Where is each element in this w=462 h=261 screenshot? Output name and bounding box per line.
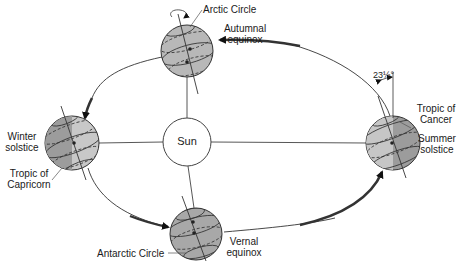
summer-solstice-label: Summer solstice	[413, 133, 461, 155]
seasons-diagram: Sun Arctic Circle Autumnal equinox 23½° …	[0, 0, 462, 261]
globe-vernal-equinox	[165, 196, 226, 261]
tropic-of-cancer-label: Tropic of Cancer	[412, 103, 460, 125]
vernal-equinox-label: Vernal equinox	[222, 236, 266, 258]
autumnal-equinox-label: Autumnal equinox	[219, 23, 271, 45]
tropic-of-capricorn-label: Tropic of Capricorn	[4, 168, 54, 190]
orbit-path	[85, 40, 390, 232]
arctic-circle-label: Arctic Circle	[203, 4, 256, 15]
globe-summer-solstice	[359, 72, 425, 178]
winter-solstice-label: Winter solstice	[0, 131, 44, 153]
sun-label: Sun	[170, 136, 204, 147]
tilt-angle-label: 23½°	[373, 70, 394, 81]
antarctic-circle-label: Antarctic Circle	[97, 248, 164, 259]
sun-rays	[99, 68, 366, 208]
globe-autumnal-equinox	[158, 10, 220, 94]
